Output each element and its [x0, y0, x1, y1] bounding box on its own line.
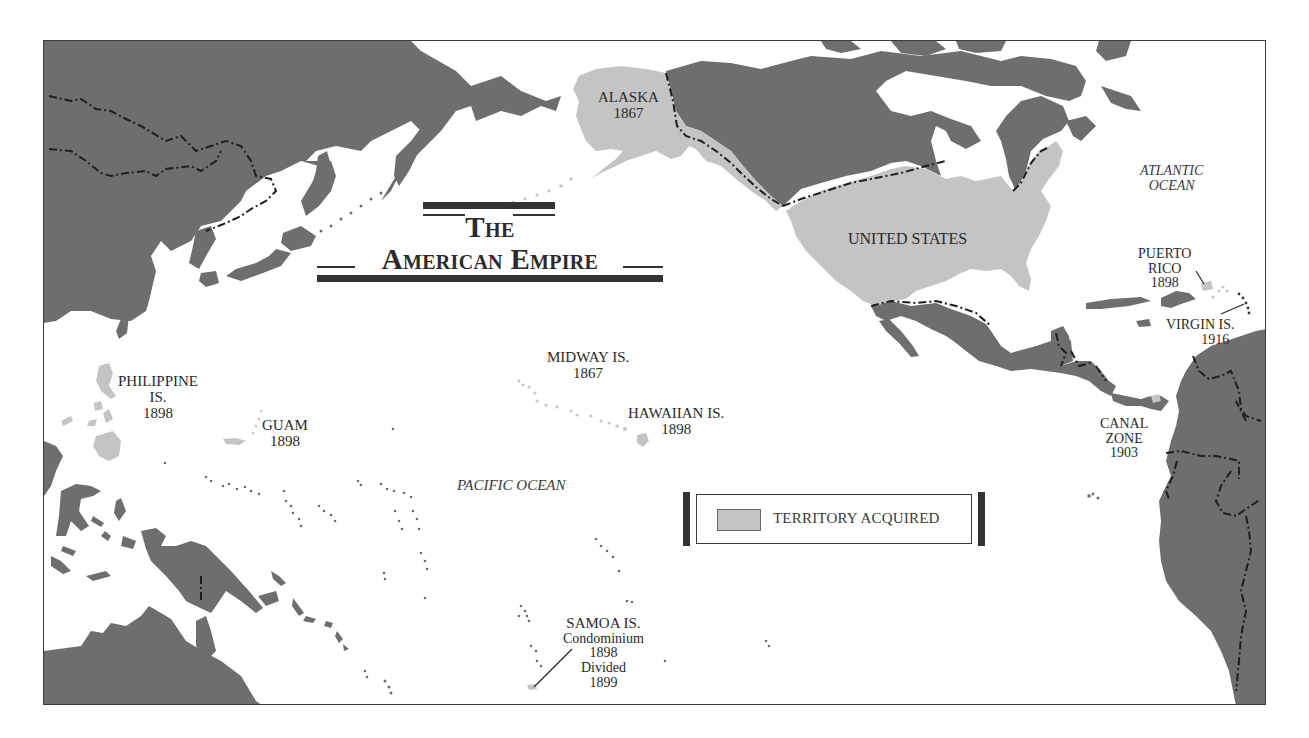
canal-zone-name-1: CANAL	[1100, 417, 1148, 432]
samoa-name: SAMOA IS.	[563, 616, 644, 632]
legend-label: TERRITORY ACQUIRED	[773, 510, 940, 527]
label-philippines: PHILIPPINE IS. 1898	[118, 374, 198, 421]
samoa-year-1: 1898	[563, 646, 644, 661]
atlantic-ocean-line1: ATLANTIC	[1140, 164, 1203, 179]
virgin-islands-name: VIRGIN IS.	[1166, 318, 1234, 333]
philippines-name-1: PHILIPPINE	[118, 374, 198, 390]
legend-bar-left	[683, 492, 690, 546]
label-virgin-islands: VIRGIN IS. 1916	[1166, 318, 1234, 347]
guam-name: GUAM	[262, 418, 308, 434]
alaska-name: ALASKA	[598, 90, 659, 106]
canal-zone-year: 1903	[1100, 446, 1148, 461]
hawaii-year: 1898	[628, 422, 724, 438]
midway-name: MIDWAY IS.	[547, 350, 629, 366]
title-rule	[623, 266, 663, 268]
map-canvas	[44, 41, 1266, 705]
puerto-rico-name-2: RICO	[1138, 262, 1191, 277]
virgin-islands-year: 1916	[1196, 333, 1234, 348]
atlantic-ocean-line2: OCEAN	[1140, 179, 1203, 194]
label-puerto-rico: PUERTO RICO 1898	[1138, 247, 1191, 291]
samoa-status-1: Condominium	[563, 632, 644, 647]
philippines-year: 1898	[118, 406, 198, 422]
title-rule	[317, 266, 355, 268]
legend-bar-right	[978, 492, 985, 546]
midway-year: 1867	[547, 366, 629, 382]
title-line-2: American Empire	[317, 243, 663, 276]
guam-territory	[223, 438, 246, 445]
label-canal-zone: CANAL ZONE 1903	[1100, 417, 1148, 461]
canal-zone-name-2: ZONE	[1100, 432, 1148, 447]
legend-box: TERRITORY ACQUIRED	[696, 494, 972, 544]
samoa-year-2: 1899	[563, 676, 644, 691]
southeast-asia-landmass	[44, 441, 349, 705]
legend-swatch-territory	[717, 509, 761, 531]
pacific-island-dots	[164, 428, 771, 695]
title-line-1: The	[317, 211, 663, 244]
legend: TERRITORY ACQUIRED	[683, 488, 985, 548]
hawaii-name: HAWAIIAN IS.	[628, 406, 724, 422]
pacific-ocean-text: PACIFIC OCEAN	[457, 477, 565, 493]
label-guam: GUAM 1898	[262, 418, 308, 450]
map-frame	[43, 40, 1266, 705]
alaska-year: 1867	[598, 106, 659, 122]
map-title: The American Empire	[317, 202, 663, 284]
guam-year: 1898	[262, 434, 308, 450]
philippines-territory	[96, 363, 116, 399]
label-samoa: SAMOA IS. Condominium 1898 Divided 1899	[563, 616, 644, 691]
label-atlantic-ocean: ATLANTIC OCEAN	[1140, 164, 1203, 193]
samoa-status-2: Divided	[563, 661, 644, 676]
label-midway: MIDWAY IS. 1867	[547, 350, 629, 382]
united-states-name: UNITED STATES	[848, 230, 967, 247]
label-hawaii: HAWAIIAN IS. 1898	[628, 406, 724, 438]
title-bar-top	[423, 202, 555, 209]
puerto-rico-year: 1898	[1138, 276, 1191, 291]
philippines-name-2: IS.	[118, 390, 198, 406]
label-pacific-ocean: PACIFIC OCEAN	[457, 478, 565, 494]
puerto-rico-name-1: PUERTO	[1138, 247, 1191, 262]
label-united-states: UNITED STATES	[848, 231, 967, 248]
asia-landmass	[44, 41, 561, 339]
title-bar-bottom	[317, 275, 663, 282]
virgin-islands-dots	[1238, 293, 1251, 315]
label-alaska: ALASKA 1867	[598, 90, 659, 122]
